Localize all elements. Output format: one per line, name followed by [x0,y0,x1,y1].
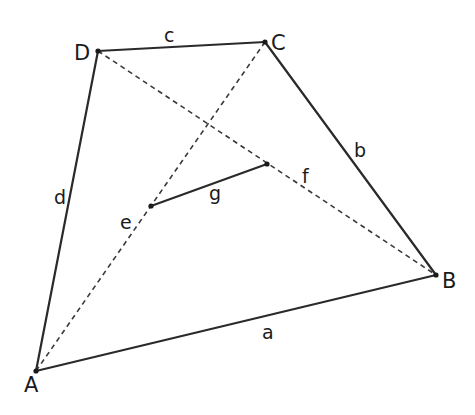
side-label-c: c [164,24,174,46]
diagonal-label-e: e [120,211,132,233]
side-label-d: d [54,186,66,208]
side-c [98,42,265,51]
vertex-b-point [433,272,438,277]
diagonal-label-f: f [302,165,310,187]
vertex-label-c: C [271,31,286,55]
midpoint-f-point [264,161,269,166]
vertex-d-point [95,48,100,53]
side-a [36,275,436,371]
vertex-label-b: B [442,269,456,293]
midpoint-e-point [148,203,153,208]
vertex-c-point [262,39,267,44]
side-label-b: b [354,139,366,161]
vertex-label-d: D [74,41,90,65]
side-b [265,42,436,275]
vertex-label-a: A [24,373,39,397]
side-d [36,51,98,371]
quadrilateral-diagram: A B C D a b c d e f g [0,0,475,415]
segment-label-g: g [209,182,221,204]
side-label-a: a [262,321,274,343]
